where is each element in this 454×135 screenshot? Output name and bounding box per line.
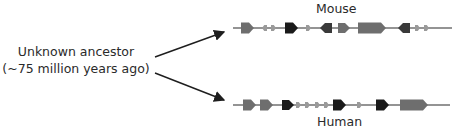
arrow-to-human (155, 73, 224, 100)
gene-arrow (358, 23, 386, 34)
gene-arrow (282, 100, 294, 110)
gene-arrow (324, 102, 329, 108)
gene-arrow (376, 100, 389, 111)
gene-arrow (398, 23, 410, 33)
gene-arrow (296, 102, 301, 108)
gene-arrow (262, 25, 267, 31)
gene-arrow (415, 25, 420, 31)
gene-arrow (424, 25, 429, 31)
gene-arrow (243, 100, 256, 111)
evolution-diagram (0, 0, 454, 135)
gene-arrow (320, 23, 332, 33)
gene-arrow (357, 102, 362, 108)
gene-arrow (241, 23, 254, 34)
human-chromosome (233, 100, 450, 111)
gene-arrow (338, 23, 350, 33)
gene-arrow (306, 25, 311, 31)
gene-arrow (260, 100, 273, 111)
gene-arrow (333, 100, 346, 111)
mouse-chromosome (233, 23, 452, 34)
gene-arrow (285, 23, 298, 34)
gene-arrow (315, 102, 320, 108)
gene-arrow (400, 100, 428, 111)
gene-arrow (271, 25, 276, 31)
gene-arrow (305, 102, 310, 108)
arrow-to-mouse (155, 32, 224, 57)
